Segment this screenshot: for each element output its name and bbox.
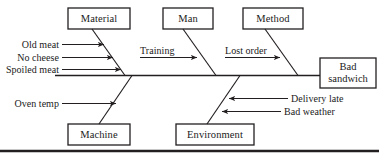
bone-material xyxy=(92,29,125,76)
category-label-environment: Environment xyxy=(176,129,254,141)
effect-label-line1: Bad xyxy=(320,61,376,73)
bone-machine xyxy=(99,76,132,125)
category-label-man: Man xyxy=(163,13,213,25)
cause-label-spoiled-meat: Spoiled meat xyxy=(0,64,59,75)
cause-label-lost-order: Lost order xyxy=(225,45,267,56)
category-label-machine: Machine xyxy=(68,129,130,141)
bone-method xyxy=(265,29,298,76)
category-label-method: Method xyxy=(243,13,303,25)
cause-label-training: Training xyxy=(140,45,174,56)
fishbone-diagram: Material Man Method Machine Environment … xyxy=(0,0,379,160)
effect-label-line2: sandwich xyxy=(320,73,376,85)
cause-label-bad-weather: Bad weather xyxy=(284,106,335,117)
cause-label-delivery-late: Delivery late xyxy=(291,93,344,104)
cause-label-old-meat: Old meat xyxy=(0,39,59,50)
bone-environment xyxy=(207,76,240,125)
cause-label-oven-temp: Oven temp xyxy=(0,98,59,109)
cause-label-no-cheese: No cheese xyxy=(0,52,59,63)
category-label-material: Material xyxy=(68,13,130,25)
bone-man xyxy=(183,29,216,76)
